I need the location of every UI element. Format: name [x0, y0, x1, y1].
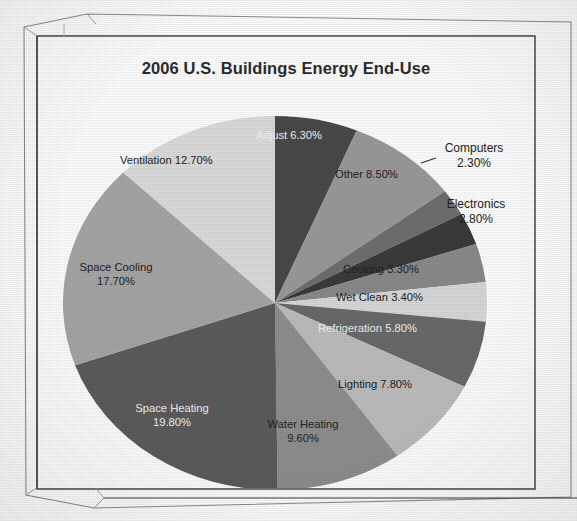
pie-label-electronics-name: Electronics: [424, 197, 528, 212]
pie-label-space-heating-name: Space Heating: [116, 402, 228, 416]
pie-label-adjust: Adjust 6.30%: [256, 129, 322, 143]
pie-label-other: Other 8.50%: [335, 168, 398, 182]
pie-label-computers-name: Computers: [420, 141, 528, 156]
pie-label-computers-pct: 2.30%: [420, 156, 528, 171]
pie-label-water-heating-name: Water Heating: [250, 418, 356, 432]
pie-label-water-heating-pct: 9.60%: [250, 432, 356, 446]
pie-label-space-cooling-pct: 17.70%: [60, 275, 172, 289]
pie-label-space-heating-pct: 19.80%: [116, 416, 228, 430]
pie-label-electronics-pct: 2.80%: [424, 212, 528, 227]
pie-label-space-cooling-name: Space Cooling: [60, 261, 172, 275]
pie-label-wet-clean: Wet Clean 3.40%: [336, 291, 423, 305]
pie-label-cooking: Cooking 3.30%: [343, 263, 419, 277]
pie-label-lighting: Lighting 7.80%: [338, 378, 412, 392]
pie-label-ventilation: Ventilation 12.70%: [120, 154, 213, 168]
pie-label-refrigeration: Refrigeration 5.80%: [318, 322, 417, 336]
chart-plot-area: 2006 U.S. Buildings Energy End-Use Adjus…: [38, 37, 534, 488]
